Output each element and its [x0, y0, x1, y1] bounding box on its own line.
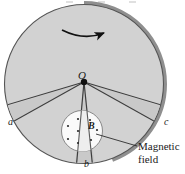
- label-field-symbol-B: B: [88, 121, 95, 132]
- label-magnetic-field: Magnetic field: [138, 140, 180, 166]
- physics-figure: O a b c B Magnetic field: [0, 0, 185, 174]
- label-point-c: c: [164, 117, 168, 128]
- label-point-b: b: [84, 159, 89, 170]
- label-point-a: a: [8, 117, 13, 128]
- scan-artifact-marks: [66, 1, 136, 3]
- magnetic-field-line-2: field: [138, 153, 180, 166]
- magnetic-field-line-1: Magnetic: [138, 140, 180, 153]
- label-center-O: O: [78, 70, 86, 82]
